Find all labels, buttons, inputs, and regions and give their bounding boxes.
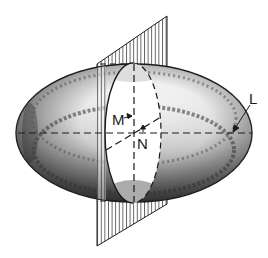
diagram-canvas: M N L [0,0,268,258]
ellipsoid-diagram: M N L [0,0,268,258]
label-l: L [249,90,257,107]
label-m: M [112,111,125,128]
label-n: N [137,135,148,152]
